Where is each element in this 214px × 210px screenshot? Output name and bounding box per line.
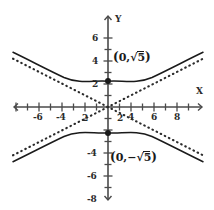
lower-label-radical-sign: √ <box>136 151 143 164</box>
y-tick-label-6: 6 <box>92 33 98 43</box>
x-tick-label-8: 8 <box>174 112 180 122</box>
lower-vertex-label: (0,−√5) <box>110 150 157 164</box>
x-tick-label-2: 2 <box>117 113 123 123</box>
lower-label-minus-sign: − <box>127 151 136 164</box>
y-axis-name: Y <box>115 14 121 24</box>
upper-label-close-paren: ) <box>145 50 151 64</box>
y-tick-label-minus8: -8 <box>87 194 96 204</box>
x-tick-label-minus2: 2 <box>82 113 88 123</box>
x-tick-label-6: 6 <box>151 112 157 122</box>
x-tick-label-minus4: -4 <box>56 112 65 122</box>
y-tick-label-minus6: -6 <box>87 171 96 181</box>
x-axis-name: X <box>196 86 203 96</box>
lower-label-close-paren: ) <box>151 150 157 164</box>
lower-label-radical-group: √5 <box>136 150 151 164</box>
upper-vertex-point-marker <box>105 78 111 84</box>
upper-label-radical-group: √5 <box>130 50 145 64</box>
y-tick-label-4: 4 <box>92 56 98 66</box>
x-tick-label-minus6: -6 <box>33 112 42 122</box>
upper-vertex-label: (0,√5) <box>113 50 151 64</box>
plot-canvas <box>0 0 214 210</box>
upper-label-vinculum <box>137 51 144 52</box>
upper-label-radicand: 5 <box>137 51 145 64</box>
lower-vertex-point-marker <box>105 130 111 136</box>
hyperbola-graph-figure: X Y -6 -4 2 2 4 6 8 6 4 2 -4 -6 -8 (0,√5… <box>0 0 214 210</box>
x-tick-label-4: 4 <box>128 112 134 122</box>
y-tick-label-minus4: -4 <box>87 148 96 158</box>
lower-label-radicand: 5 <box>144 151 152 164</box>
lower-label-vinculum <box>143 151 150 152</box>
y-tick-label-2: 2 <box>92 79 98 89</box>
